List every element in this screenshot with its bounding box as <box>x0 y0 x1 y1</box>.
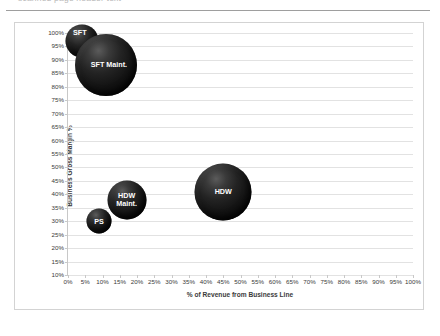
gridline <box>68 221 413 222</box>
y-tick-mark <box>65 194 68 195</box>
x-tick-label: 60% <box>269 279 281 285</box>
x-tick-label: 90% <box>372 279 384 285</box>
y-tick-label: 35% <box>52 205 64 211</box>
x-tick-label: 0% <box>64 279 73 285</box>
y-tick-mark <box>65 141 68 142</box>
bubble-chart: Business Gross Margin % % of Revenue fro… <box>14 22 424 310</box>
y-tick-label: 70% <box>52 111 64 117</box>
x-tick-label: 40% <box>200 279 212 285</box>
y-tick-label: 20% <box>52 245 64 251</box>
y-tick-mark <box>65 181 68 182</box>
y-tick-mark <box>65 235 68 236</box>
y-tick-label: 80% <box>52 84 64 90</box>
y-tick-mark <box>65 262 68 263</box>
y-tick-label: 85% <box>52 70 64 76</box>
x-tick-label: 45% <box>217 279 229 285</box>
bubble-sft-maint[interactable]: SFT Maint. <box>75 34 137 96</box>
gridline <box>68 248 413 249</box>
x-tick-label: 55% <box>252 279 264 285</box>
y-tick-label: 30% <box>52 218 64 224</box>
y-tick-label: 40% <box>52 191 64 197</box>
gridline <box>68 127 413 128</box>
x-tick-label: 20% <box>131 279 143 285</box>
x-tick-label: 70% <box>303 279 315 285</box>
x-tick-label: 30% <box>165 279 177 285</box>
y-tick-label: 55% <box>52 151 64 157</box>
y-tick-label: 75% <box>52 97 64 103</box>
y-tick-mark <box>65 100 68 101</box>
gridline <box>68 114 413 115</box>
gridline <box>68 262 413 263</box>
y-tick-label: 25% <box>52 232 64 238</box>
bubble-label: HDW Maint. <box>116 192 137 208</box>
gridline <box>68 235 413 236</box>
gridline <box>68 33 413 34</box>
x-tick-label: 85% <box>355 279 367 285</box>
y-tick-label: 15% <box>52 258 64 264</box>
bubble-label: HDW <box>215 188 232 196</box>
x-tick-label: 95% <box>390 279 402 285</box>
scanned-page-header-strip: scanned page header text <box>0 0 440 13</box>
y-tick-mark <box>65 60 68 61</box>
bubble-label: SFT <box>73 28 87 36</box>
y-tick-label: 65% <box>52 124 64 130</box>
plot-area: 10%15%20%25%30%35%40%45%50%55%60%65%70%7… <box>67 33 413 276</box>
y-tick-mark <box>65 114 68 115</box>
x-tick-label: 25% <box>148 279 160 285</box>
gridline <box>68 100 413 101</box>
x-tick-label: 50% <box>234 279 246 285</box>
y-tick-label: 45% <box>52 178 64 184</box>
y-tick-mark <box>65 154 68 155</box>
x-tick-label: 100% <box>405 279 421 285</box>
x-tick-label: 35% <box>183 279 195 285</box>
bubble-ps[interactable]: PS <box>87 209 112 234</box>
y-tick-label: 100% <box>48 30 64 36</box>
gridline <box>68 154 413 155</box>
gridline <box>68 141 413 142</box>
x-tick-label: 75% <box>321 279 333 285</box>
bubble-hdw-maint[interactable]: HDW Maint. <box>107 180 146 219</box>
y-tick-mark <box>65 127 68 128</box>
y-tick-mark <box>65 221 68 222</box>
y-tick-label: 60% <box>52 137 64 143</box>
y-tick-mark <box>65 73 68 74</box>
bubble-label: PS <box>94 217 104 225</box>
y-tick-label: 50% <box>52 164 64 170</box>
bubble-hdw[interactable]: HDW <box>195 163 252 220</box>
scanned-header-text: scanned page header text <box>18 0 121 3</box>
x-axis-title: % of Revenue from Business Line <box>67 291 413 298</box>
y-tick-label: 10% <box>52 272 64 278</box>
y-tick-mark <box>65 248 68 249</box>
bubble-label: SFT Maint. <box>91 61 127 69</box>
x-tick-label: 15% <box>114 279 126 285</box>
x-tick-label: 65% <box>286 279 298 285</box>
x-tick-label: 5% <box>81 279 90 285</box>
x-tick-label: 80% <box>338 279 350 285</box>
y-tick-mark <box>65 208 68 209</box>
y-tick-mark <box>65 87 68 88</box>
header-rule <box>6 10 430 11</box>
y-tick-mark <box>65 167 68 168</box>
y-tick-label: 95% <box>52 43 64 49</box>
y-tick-label: 90% <box>52 57 64 63</box>
x-tick-label: 10% <box>96 279 108 285</box>
